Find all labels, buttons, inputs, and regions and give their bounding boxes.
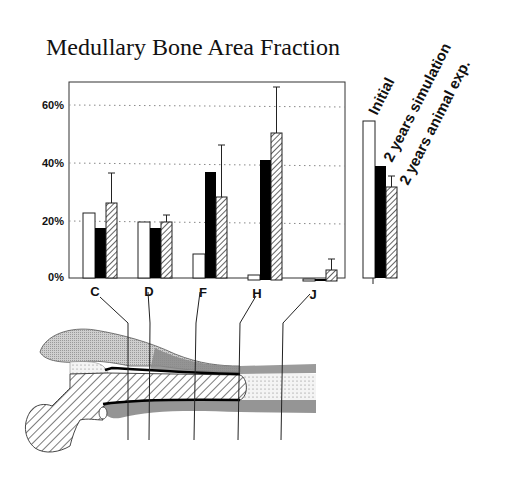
bar-simulation-F [205,172,216,278]
gridline-60 [69,105,345,107]
y-axis: 60% 40% 20% 0% [42,99,64,283]
bar-simulation-D [150,228,161,278]
bar-initial-C [83,213,95,278]
lower-cortex [103,400,316,419]
xlabel-D: D [144,284,153,299]
bar-animal-H [271,133,282,280]
bar-initial-H [248,275,260,280]
ytick-20: 20% [42,215,64,227]
figure: Medullary Bone Area Fraction 60% 40% 20%… [0,0,519,486]
bar-animal-J [326,270,337,281]
bar-group-H [248,87,282,280]
xlabel-H: H [252,286,261,301]
legend-bar-animal [386,187,397,278]
bar-initial-D [138,222,150,278]
femur-diagram [25,329,316,452]
bar-simulation-H [260,160,271,280]
ytick-40: 40% [42,157,64,169]
legend: Initial 2 years simulation 2 years anima… [363,40,473,284]
bars [83,87,337,281]
gridline-40 [69,163,345,166]
medullary-canal [238,374,316,400]
chart-title: Medullary Bone Area Fraction [46,34,340,60]
bar-group-C [83,173,117,278]
bar-animal-C [106,203,117,278]
upper-cortex [150,348,316,374]
bar-simulation-C [95,228,106,278]
ytick-0: 0% [48,271,64,283]
bar-animal-D [161,222,172,278]
xlabel-J: J [309,287,316,302]
xlabel-C: C [90,284,100,299]
legend-bar-initial [363,121,375,278]
x-axis: C D F H J [90,284,316,302]
legend-bar-simulation [375,166,386,278]
ytick-60: 60% [42,99,64,111]
bar-initial-J [303,279,315,281]
bar-animal-F [216,197,227,278]
bar-simulation-J [315,279,326,281]
bar-initial-F [193,254,205,278]
legend-label-initial: Initial [365,75,398,118]
bar-group-D [138,215,172,278]
